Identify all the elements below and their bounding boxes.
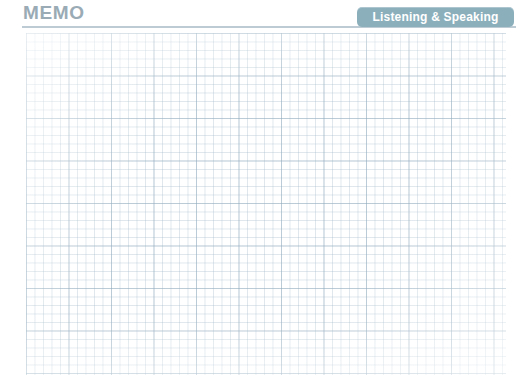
memo-page: MEMO Listening & Speaking <box>0 0 528 387</box>
page-title: MEMO <box>23 1 85 24</box>
memo-grid-note-area[interactable] <box>26 33 506 375</box>
paper-texture-overlay <box>26 33 506 375</box>
status-badge-label: Listening & Speaking <box>357 7 514 27</box>
page-header: MEMO Listening & Speaking <box>0 0 528 30</box>
status-badge: Listening & Speaking <box>357 7 514 27</box>
